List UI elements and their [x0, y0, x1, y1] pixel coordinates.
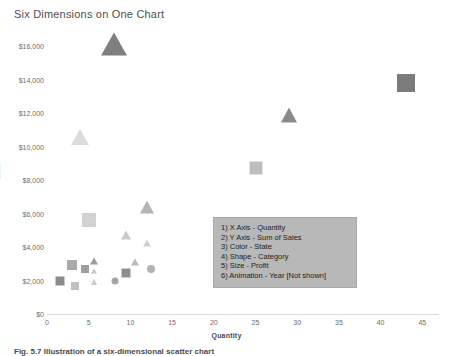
legend-line: 1) X Axis - Quantity [221, 223, 349, 233]
x-tick-label: 40 [377, 319, 385, 326]
data-point-square [81, 265, 89, 273]
legend-box: 1) X Axis - Quantity2) Y Axis - Sum of S… [213, 217, 357, 288]
x-tick-label: 30 [293, 319, 301, 326]
data-point-triangle [101, 33, 127, 56]
y-tick-label: $10,000 [0, 143, 44, 150]
data-point-triangle [71, 129, 89, 145]
data-point-square [249, 162, 262, 175]
legend-line: 2) Y Axis - Sum of Sales [221, 233, 349, 243]
legend-line: 6) Animation - Year [Not shown] [221, 271, 349, 281]
data-point-circle [147, 265, 155, 273]
data-point-square [71, 282, 79, 290]
data-point-square [67, 260, 77, 270]
data-point-triangle [121, 230, 131, 239]
data-point-triangle [281, 108, 297, 123]
data-point-triangle [131, 259, 139, 266]
x-tick-label: 0 [45, 319, 49, 326]
data-point-square [56, 277, 65, 286]
y-axis-title: Sales [0, 163, 1, 179]
x-axis-line [47, 314, 439, 315]
data-point-triangle [91, 268, 97, 273]
x-tick-label: 45 [418, 319, 426, 326]
data-point-triangle [140, 200, 154, 213]
y-tick-label: $6,000 [0, 210, 44, 217]
data-point-triangle [90, 257, 98, 264]
data-point-square [122, 269, 131, 278]
data-point-square [397, 74, 415, 92]
x-tick-label: 25 [252, 319, 260, 326]
x-axis-title: Quantity [0, 332, 453, 339]
x-tick-label: 35 [335, 319, 343, 326]
x-tick-label: 5 [87, 319, 91, 326]
y-tick-label: $2,000 [0, 277, 44, 284]
y-tick-label: $4,000 [0, 244, 44, 251]
data-point-triangle [143, 240, 151, 247]
chart-title: Six Dimensions on One Chart [14, 8, 164, 20]
y-tick-label: $14,000 [0, 76, 44, 83]
data-point-square [82, 213, 96, 227]
x-tick-label: 15 [168, 319, 176, 326]
legend-line: 3) Color - State [221, 242, 349, 252]
y-tick-label: $16,000 [0, 43, 44, 50]
y-tick-label: $8,000 [0, 177, 44, 184]
legend-line: 5) Size - Profit [221, 261, 349, 271]
legend-line: 4) Shape - Category [221, 252, 349, 262]
chart-container: Six Dimensions on One Chart $0$2,000$4,0… [0, 0, 453, 356]
y-tick-label: $0 [0, 311, 44, 318]
x-tick-label: 10 [126, 319, 134, 326]
data-point-circle [112, 277, 119, 284]
y-tick-label: $12,000 [0, 110, 44, 117]
y-axis-tick-labels: $0$2,000$4,000$6,000$8,000$10,000$12,000… [0, 33, 44, 314]
x-tick-label: 20 [210, 319, 218, 326]
x-axis-tick-labels: 051015202530354045 [47, 319, 439, 331]
figure-caption: Fig. 5.7 Illustration of a six-dimension… [14, 347, 443, 356]
data-point-triangle [91, 279, 97, 285]
